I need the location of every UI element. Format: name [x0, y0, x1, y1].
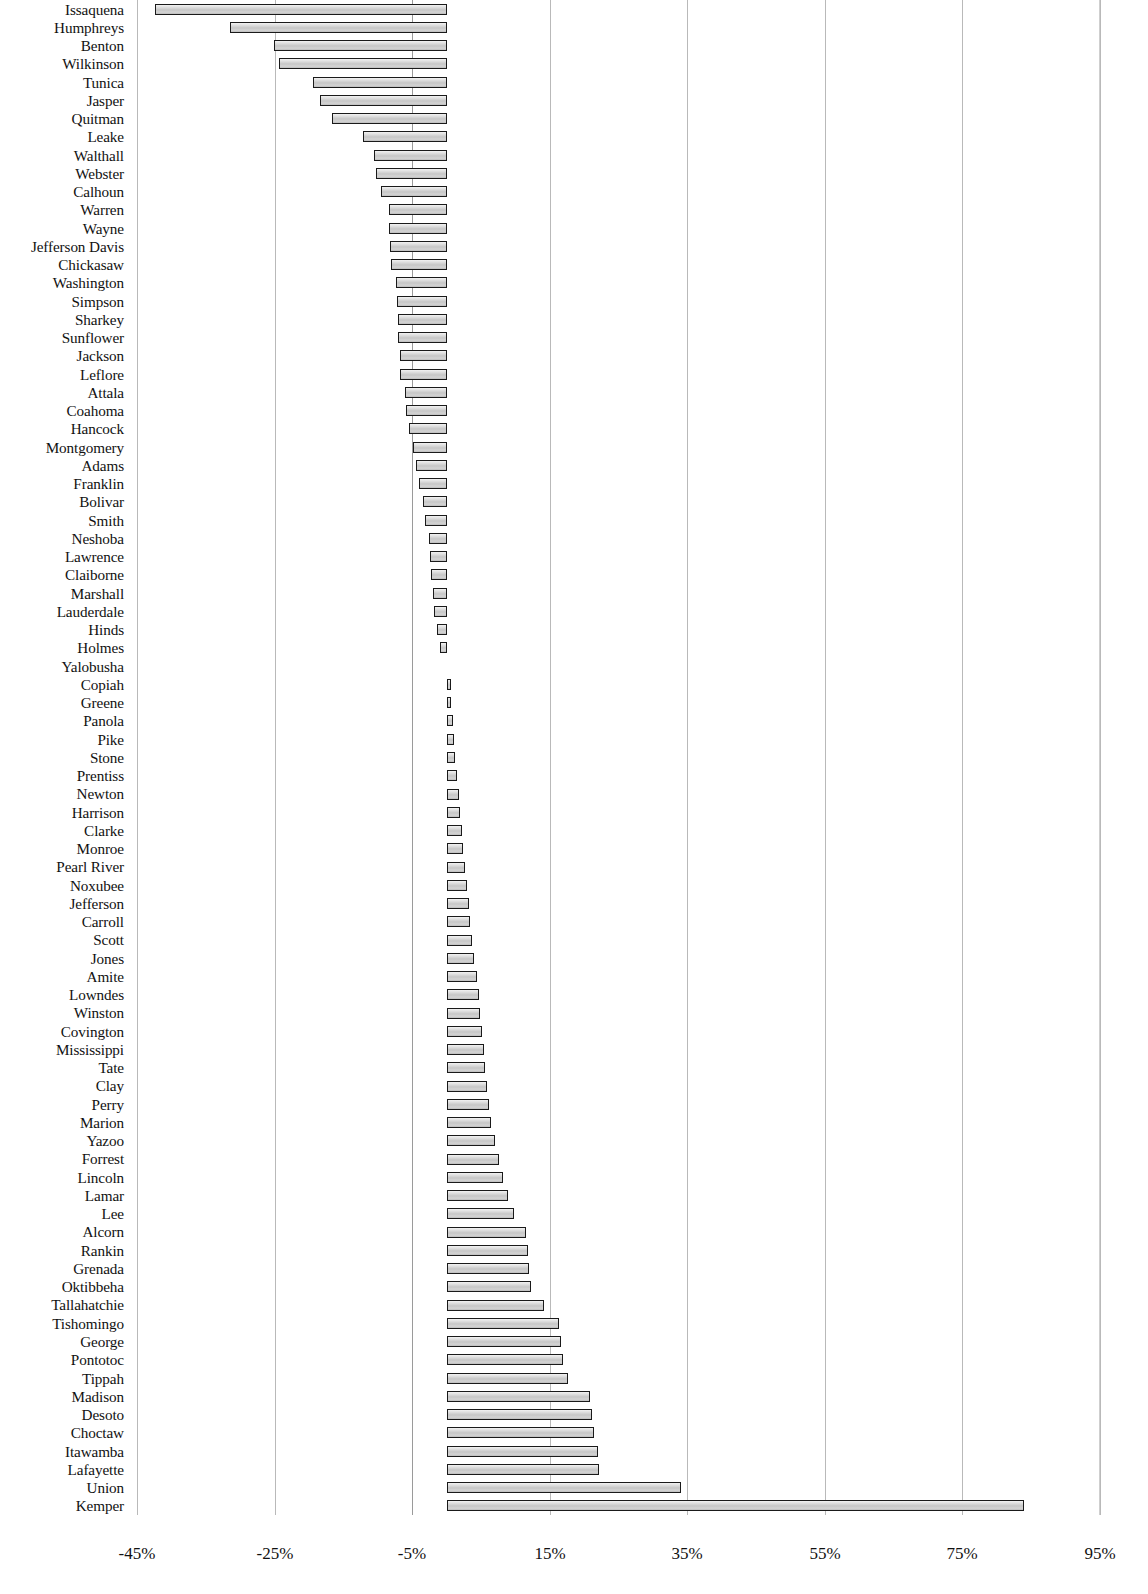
category-label: Montgomery — [0, 440, 124, 455]
category-label: Lamar — [0, 1188, 124, 1203]
category-label: Amite — [0, 969, 124, 984]
category-label: Tippah — [0, 1371, 124, 1386]
category-label: Rankin — [0, 1243, 124, 1258]
bar — [447, 971, 477, 982]
bar — [363, 131, 446, 142]
bar — [447, 916, 470, 927]
bar — [419, 478, 447, 489]
x-axis: -45%-25%-5%15%35%55%75%95% — [137, 1515, 1100, 1594]
bar — [447, 789, 459, 800]
bar — [398, 314, 447, 325]
bar — [447, 1354, 564, 1365]
bar — [447, 1026, 483, 1037]
bar — [447, 1300, 545, 1311]
category-label: Forrest — [0, 1151, 124, 1166]
bar — [447, 1081, 488, 1092]
bar — [447, 1062, 486, 1073]
category-label: Scott — [0, 932, 124, 947]
category-label: Walthall — [0, 148, 124, 163]
bar — [447, 1446, 598, 1457]
category-label: Pearl River — [0, 859, 124, 874]
category-label: Lawrence — [0, 549, 124, 564]
category-label: Sunflower — [0, 330, 124, 345]
category-label: Yalobusha — [0, 659, 124, 674]
bar — [447, 1172, 503, 1183]
category-label: Washington — [0, 275, 124, 290]
bar — [447, 1208, 514, 1219]
bar — [447, 715, 453, 726]
category-label: Union — [0, 1480, 124, 1495]
bar — [434, 606, 446, 617]
bar — [405, 387, 447, 398]
category-label: Sharkey — [0, 312, 124, 327]
category-label: Webster — [0, 166, 124, 181]
category-label: Itawamba — [0, 1444, 124, 1459]
category-label: Clarke — [0, 823, 124, 838]
category-label: Leflore — [0, 367, 124, 382]
category-label: Desoto — [0, 1407, 124, 1422]
bar — [447, 1336, 562, 1347]
bar — [397, 296, 447, 307]
category-label: Pontotoc — [0, 1352, 124, 1367]
bar — [447, 989, 479, 1000]
category-label: Jefferson Davis — [0, 239, 124, 254]
bar — [396, 277, 446, 288]
plot-area — [137, 0, 1100, 1515]
category-label: Leake — [0, 129, 124, 144]
category-label: Perry — [0, 1097, 124, 1112]
bar — [440, 642, 446, 653]
horizontal-bar-chart: IssaquenaHumphreysBentonWilkinsonTunicaJ… — [0, 0, 1148, 1594]
bar — [447, 843, 464, 854]
category-label: Adams — [0, 458, 124, 473]
x-tick-label: 75% — [946, 1545, 977, 1562]
category-label: Benton — [0, 38, 124, 53]
category-label: Tishomingo — [0, 1316, 124, 1331]
bar — [447, 1373, 568, 1384]
category-label: Tunica — [0, 75, 124, 90]
bar — [400, 350, 447, 361]
category-label: Jasper — [0, 93, 124, 108]
category-label: Humphreys — [0, 20, 124, 35]
category-label: Lowndes — [0, 987, 124, 1002]
bar — [447, 1135, 495, 1146]
bar — [447, 734, 455, 745]
bar — [447, 1500, 1025, 1511]
category-label: Prentiss — [0, 768, 124, 783]
category-label: Panola — [0, 713, 124, 728]
bar — [447, 862, 466, 873]
category-label: Harrison — [0, 805, 124, 820]
category-label: Pike — [0, 732, 124, 747]
category-label: Oktibbeha — [0, 1279, 124, 1294]
bar — [416, 460, 446, 471]
category-label: Jackson — [0, 348, 124, 363]
bar — [447, 1318, 559, 1329]
bar — [279, 58, 447, 69]
bar — [390, 241, 446, 252]
category-label: Jones — [0, 951, 124, 966]
bar — [447, 1464, 599, 1475]
category-label: Copiah — [0, 677, 124, 692]
category-label: Simpson — [0, 294, 124, 309]
bar — [437, 624, 447, 635]
x-tick-label: -25% — [257, 1545, 294, 1562]
bar — [447, 697, 452, 708]
category-label: Choctaw — [0, 1425, 124, 1440]
category-label: Noxubee — [0, 878, 124, 893]
category-label: Greene — [0, 695, 124, 710]
bar — [332, 113, 446, 124]
bar — [398, 332, 446, 343]
bar — [409, 423, 447, 434]
bar — [430, 551, 447, 562]
bar — [447, 679, 451, 690]
category-label: Chickasaw — [0, 257, 124, 272]
category-label: Franklin — [0, 476, 124, 491]
bar — [447, 880, 468, 891]
category-label: Wayne — [0, 221, 124, 236]
bar — [447, 1099, 490, 1110]
category-label: Bolivar — [0, 494, 124, 509]
category-label: Lafayette — [0, 1462, 124, 1477]
bar — [447, 1117, 492, 1128]
bar — [447, 825, 462, 836]
bar — [447, 1190, 509, 1201]
category-label: Holmes — [0, 640, 124, 655]
